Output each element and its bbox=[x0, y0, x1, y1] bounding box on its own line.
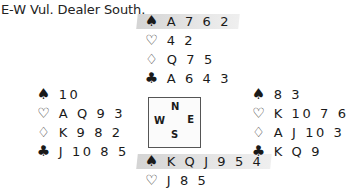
heart-icon: ♡ bbox=[250, 104, 267, 123]
north-clubs: ♣ A 6 4 3 bbox=[143, 69, 231, 88]
diamond-icon: ♢ bbox=[35, 123, 52, 142]
spade-icon: ♠ bbox=[250, 85, 267, 104]
deal-conditions: E-W Vul. Dealer South. bbox=[1, 2, 145, 17]
north-diamonds: ♢ Q 7 5 bbox=[143, 50, 231, 69]
south-spades: ♠ K Q J 9 5 4 bbox=[143, 152, 263, 171]
west-hearts: ♡ A Q 9 3 bbox=[35, 104, 129, 123]
compass-east: E bbox=[187, 114, 194, 125]
diamond-icon: ♢ bbox=[250, 123, 267, 142]
club-icon: ♣ bbox=[35, 142, 52, 161]
east-hand: ♠ 8 3 ♡ K 10 7 6 ♢ A J 10 3 ♣ K Q 9 bbox=[250, 85, 349, 161]
south-hand: ♠ K Q J 9 5 4 ♡ J 8 5 bbox=[143, 152, 263, 190]
north-spades: ♠ A 7 6 2 bbox=[143, 12, 231, 31]
west-diamonds: ♢ K 9 8 2 bbox=[35, 123, 129, 142]
compass-box: N W E S bbox=[148, 97, 201, 148]
heart-icon: ♡ bbox=[143, 171, 160, 190]
east-hearts: ♡ K 10 7 6 bbox=[250, 104, 349, 123]
west-hand: ♠ 10 ♡ A Q 9 3 ♢ K 9 8 2 ♣ J 10 8 5 bbox=[35, 85, 129, 161]
compass-south: S bbox=[171, 129, 178, 140]
spade-icon: ♠ bbox=[35, 85, 52, 104]
spade-icon: ♠ bbox=[143, 12, 160, 31]
diamond-icon: ♢ bbox=[143, 50, 160, 69]
west-clubs: ♣ J 10 8 5 bbox=[35, 142, 129, 161]
east-clubs: ♣ K Q 9 bbox=[250, 142, 349, 161]
club-icon: ♣ bbox=[143, 69, 160, 88]
east-diamonds: ♢ A J 10 3 bbox=[250, 123, 349, 142]
heart-icon: ♡ bbox=[35, 104, 52, 123]
compass-west: W bbox=[154, 115, 165, 126]
north-hand: ♠ A 7 6 2 ♡ 4 2 ♢ Q 7 5 ♣ A 6 4 3 bbox=[143, 12, 231, 88]
compass-north: N bbox=[171, 101, 179, 112]
south-hearts: ♡ J 8 5 bbox=[143, 171, 263, 190]
north-hearts: ♡ 4 2 bbox=[143, 31, 231, 50]
east-spades: ♠ 8 3 bbox=[250, 85, 349, 104]
spade-icon: ♠ bbox=[143, 152, 160, 171]
heart-icon: ♡ bbox=[143, 31, 160, 50]
west-spades: ♠ 10 bbox=[35, 85, 129, 104]
